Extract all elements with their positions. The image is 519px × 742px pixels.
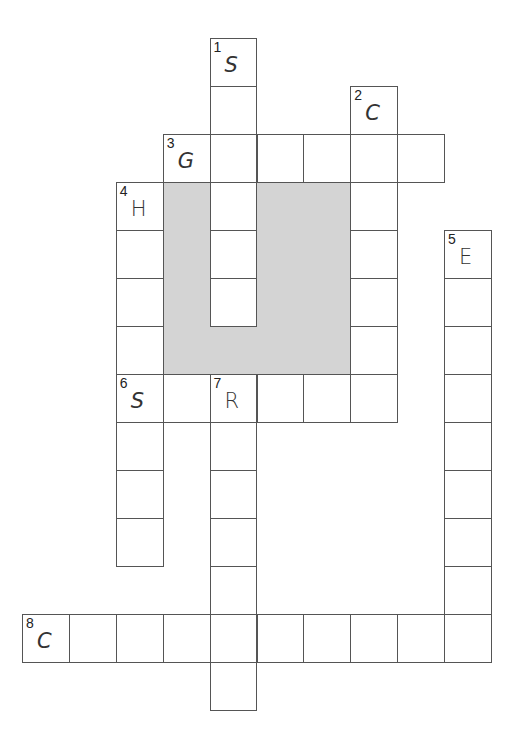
crossword-cell[interactable] [210,422,258,471]
crossword-cell[interactable] [257,134,305,183]
clue-number: 8 [26,616,34,630]
crossword-cell[interactable] [350,326,398,375]
crossword-cell[interactable] [116,326,164,375]
crossword-cell[interactable]: 3G [163,134,211,183]
clue-number: 7 [214,376,222,390]
crossword-cell[interactable] [69,614,117,663]
crossword-board: 1S2C3G4H6S5E7R8C [0,0,519,742]
crossword-cell[interactable] [444,326,492,375]
given-letter: S [131,391,144,412]
crossword-cell[interactable]: 5E [444,230,492,279]
crossword-cell[interactable] [116,614,164,663]
given-letter: S [225,55,238,76]
crossword-cell[interactable] [210,86,258,135]
clue-number: 3 [167,136,175,150]
given-letter: G [178,151,194,172]
given-letter: C [365,103,380,124]
crossword-cell[interactable]: 7R [210,374,258,423]
crossword-cell[interactable]: 8C [22,614,70,663]
crossword-cell[interactable] [116,278,164,327]
crossword-cell[interactable] [163,614,211,663]
crossword-cell[interactable] [210,566,258,615]
clue-number: 2 [354,88,362,102]
crossword-cell[interactable] [210,230,258,279]
crossword-cell[interactable] [116,230,164,279]
crossword-cell[interactable] [444,278,492,327]
crossword-cell[interactable] [303,374,351,423]
crossword-cell[interactable] [350,182,398,231]
crossword-cell[interactable] [444,422,492,471]
given-letter: C [37,631,52,652]
crossword-cell[interactable] [350,614,398,663]
crossword-cell[interactable]: 2C [350,86,398,135]
clue-number: 6 [120,376,128,390]
crossword-cell[interactable] [257,614,305,663]
crossword-cell[interactable] [210,518,258,567]
given-letter: E [459,247,472,268]
crossword-cell[interactable] [444,518,492,567]
crossword-cell[interactable] [303,614,351,663]
crossword-cell[interactable] [210,614,258,663]
given-letter: R [225,391,240,412]
crossword-cell[interactable]: 1S [210,38,258,87]
crossword-cell[interactable] [210,134,258,183]
crossword-cell[interactable]: 6S [116,374,164,423]
crossword-cell[interactable] [116,518,164,567]
clue-number: 1 [214,40,222,54]
crossword-cell[interactable] [350,278,398,327]
crossword-cell[interactable] [444,374,492,423]
crossword-cell[interactable] [116,470,164,519]
crossword-cell[interactable] [350,134,398,183]
crossword-cell[interactable] [303,134,351,183]
crossword-cell[interactable] [444,566,492,615]
crossword-cell[interactable] [444,614,492,663]
crossword-cell[interactable] [397,134,445,183]
crossword-cell[interactable] [163,374,211,423]
crossword-cell[interactable] [210,470,258,519]
crossword-cell[interactable]: 4H [116,182,164,231]
crossword-cell[interactable] [350,374,398,423]
crossword-cell[interactable] [116,422,164,471]
crossword-cell[interactable] [210,182,258,231]
crossword-cell[interactable] [397,614,445,663]
crossword-cell[interactable] [350,230,398,279]
clue-number: 5 [448,232,456,246]
crossword-cell[interactable] [444,470,492,519]
given-letter: H [131,199,147,220]
crossword-cell[interactable] [210,278,258,327]
crossword-cell[interactable] [210,662,258,711]
clue-number: 4 [120,184,128,198]
crossword-cell[interactable] [257,374,305,423]
